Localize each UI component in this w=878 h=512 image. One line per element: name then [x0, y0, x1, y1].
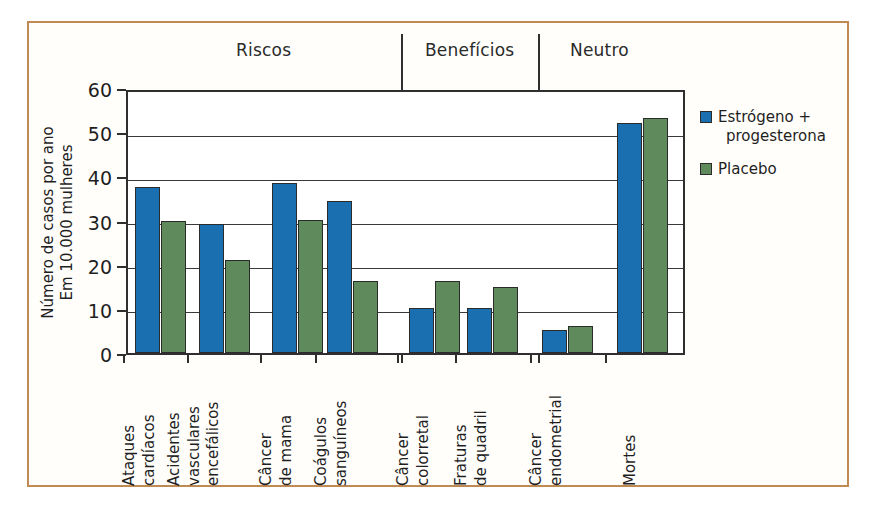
bar-placebo [493, 287, 518, 353]
bar-placebo [568, 326, 593, 353]
y-axis-title-line1: Número de casos por ano [39, 126, 58, 318]
bar-estrogen [542, 330, 567, 353]
section-title-neutro: Neutro [570, 40, 629, 60]
legend-item-estrogen: Estrógeno + progesterona [700, 108, 850, 146]
section-title-beneficios: Benefícios [425, 40, 514, 60]
y-axis-tick-label: 30 [72, 212, 112, 234]
x-axis-tick-mark [530, 355, 532, 363]
legend-item-placebo: Placebo [700, 160, 850, 179]
x-axis-category-line: Acidentes [165, 412, 185, 486]
bar-estrogen [327, 201, 352, 353]
legend-label-estrogen: Estrógeno + progesterona [718, 108, 826, 146]
x-axis-category-line: Câncer [257, 433, 277, 486]
plot-area [126, 90, 685, 355]
bar-placebo [161, 221, 186, 354]
y-axis-tick-label: 20 [72, 256, 112, 278]
chart-figure: Riscos Benefícios Neutro Número de casos… [0, 0, 878, 512]
x-axis-category-line: cardíacos [140, 415, 160, 486]
bar-estrogen [199, 224, 224, 353]
x-axis-category-line: Ataques [120, 425, 140, 486]
y-axis-tick-mark [117, 89, 126, 91]
x-axis-category-line: sanguíneos [332, 401, 352, 486]
x-axis-tick-mark [315, 355, 317, 363]
bar-placebo [643, 118, 668, 353]
x-axis-category-line: Fraturas [452, 425, 472, 486]
y-axis-tick-label: 10 [72, 300, 112, 322]
x-axis-tick-mark [187, 355, 189, 363]
x-axis-category-line: de mama [277, 415, 297, 486]
legend-label-placebo: Placebo [718, 160, 777, 179]
legend-label-estrogen-line1: Estrógeno + [718, 108, 811, 126]
bar-placebo [225, 260, 250, 353]
bar-estrogen [272, 183, 297, 353]
x-axis-category-line: Câncer [394, 433, 414, 486]
bar-placebo [353, 281, 378, 353]
x-axis-category-line: colorretal [414, 415, 434, 486]
y-axis-tick-label: 40 [72, 167, 112, 189]
y-axis-tick-mark [117, 177, 126, 179]
x-axis-tick-mark [397, 355, 399, 363]
x-axis-category-line: Câncer [527, 433, 547, 486]
x-axis-category-line: vasculares [185, 406, 205, 486]
x-axis-tick-mark [455, 355, 457, 363]
y-axis-tick-label: 60 [72, 79, 112, 101]
x-axis-tick-mark [605, 355, 607, 363]
section-title-riscos: Riscos [236, 40, 291, 60]
y-axis-tick-mark [117, 310, 126, 312]
x-axis-category-line: de quadril [472, 410, 492, 486]
gridline [128, 180, 683, 181]
bar-estrogen [467, 308, 492, 353]
x-axis-category-line: Coágulos [312, 417, 332, 486]
bar-placebo [435, 281, 460, 353]
y-axis-tick-label: 0 [72, 344, 112, 366]
legend-swatch-placebo-icon [700, 163, 712, 175]
x-axis-tick-mark [260, 355, 262, 363]
chart-legend: Estrógeno + progesterona Placebo [700, 108, 850, 192]
legend-swatch-estrogen-icon [700, 111, 712, 123]
gridline [128, 136, 683, 137]
bar-placebo [298, 220, 323, 353]
y-axis-tick-label: 50 [72, 123, 112, 145]
legend-label-estrogen-line2: progesterona [718, 127, 826, 146]
x-axis-category-line: Mortes [621, 435, 641, 486]
bar-estrogen [409, 308, 434, 353]
x-axis-category-line: encefálicos [204, 402, 224, 486]
y-axis-tick-mark [117, 133, 126, 135]
bar-estrogen [617, 123, 642, 353]
bar-estrogen [135, 187, 160, 353]
y-axis-tick-mark [117, 266, 126, 268]
x-axis-category-line: endometrial [547, 395, 567, 486]
y-axis-tick-mark [117, 222, 126, 224]
x-axis-tick-mark [123, 355, 125, 363]
